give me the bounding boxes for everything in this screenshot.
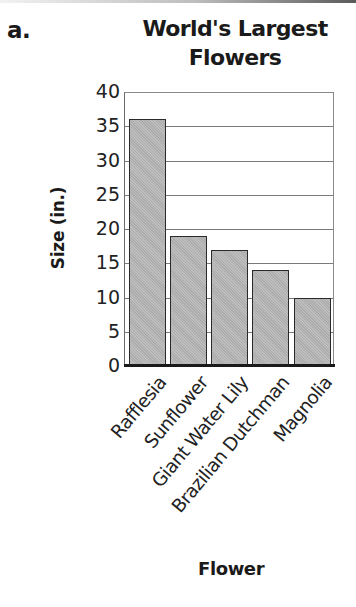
part-label: a. <box>7 17 30 43</box>
chart-title-line-2: Flowers <box>130 43 340 72</box>
bar-giant-water-lily <box>211 250 248 366</box>
y-tick-label: 30 <box>80 151 120 170</box>
y-tick-label: 15 <box>80 253 120 272</box>
y-tick-label: 20 <box>80 219 120 238</box>
chart-title-line-1: World's Largest <box>130 14 340 43</box>
y-tick-label: 35 <box>80 116 120 135</box>
chart-title: World's Largest Flowers <box>130 14 340 72</box>
plot-area <box>124 92 334 366</box>
y-tick-label: 5 <box>80 322 120 341</box>
x-axis-label: Flower <box>198 558 264 579</box>
bar-rafflesia <box>129 119 166 366</box>
bar-magnolia <box>294 298 331 367</box>
y-axis-label: Size (in.) <box>48 187 68 269</box>
y-tick-label: 40 <box>80 82 120 101</box>
bar-brazilian-dutchman <box>252 270 289 366</box>
bar-sunflower <box>170 236 207 366</box>
y-axis-ticks: 0510152025303540 <box>74 92 120 366</box>
y-tick-label: 10 <box>80 288 120 307</box>
top-rule <box>0 0 356 3</box>
y-tick-label: 0 <box>80 356 120 375</box>
y-tick-label: 25 <box>80 185 120 204</box>
x-axis-baseline <box>124 364 335 367</box>
